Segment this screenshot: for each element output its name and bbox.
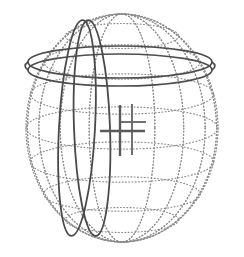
sphere-figure xyxy=(0,0,244,257)
figure-background xyxy=(0,0,244,257)
sphere-figure-canvas xyxy=(0,0,244,257)
